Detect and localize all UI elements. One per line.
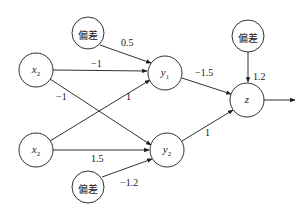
label-y1: y1 [155,66,175,81]
weight-x2top-y1: −1 [91,59,102,69]
weight-y2-z: 1 [205,128,210,138]
label-bias-y2: 偏差 [72,181,104,196]
weight-bias-y1: 0.5 [121,38,134,48]
weight-bias-y2: −1.2 [120,178,138,188]
label-y2-sub: 2 [168,150,172,158]
weight-x2bottom-y2: 1.5 [91,154,104,164]
neural-network-diagram: x2 x2 y1 y2 z 偏差 偏差 偏差 0.5 −1 −1 1 1.5 −… [0,0,306,219]
edge-x2top-y1 [53,70,147,71]
edge-bias-y2 [102,159,152,177]
weight-x2bottom-y1: 1 [126,92,131,102]
label-z-main: z [245,93,249,105]
edge-y1-z [182,78,231,94]
label-x2-bottom-sub: 2 [37,150,41,158]
weight-y1-z: −1.5 [195,68,213,78]
weight-x2top-y2: −1 [56,92,67,102]
label-z: z [237,93,257,105]
label-x2-top-sub: 2 [37,70,41,78]
label-x2-top: x2 [26,63,46,78]
label-y2: y2 [157,143,177,158]
weight-bias-z: 1.2 [253,72,266,82]
label-bias-y1: 偏差 [72,27,104,42]
label-bias-z: 偏差 [232,30,264,45]
label-x2-bottom: x2 [26,143,46,158]
label-y1-sub: 1 [166,73,170,81]
